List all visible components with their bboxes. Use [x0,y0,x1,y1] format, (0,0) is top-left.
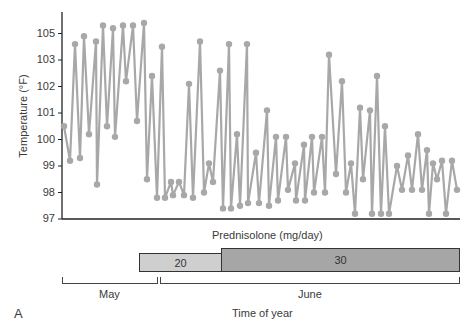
data-point [154,195,160,201]
data-point [264,107,270,113]
data-point [159,44,165,50]
may-bracket [62,277,158,284]
month-label-may: May [99,288,120,300]
data-point [399,187,405,193]
data-point [293,197,299,203]
data-point [319,134,325,140]
data-point [256,200,262,206]
data-point [206,160,212,166]
y-tick-label: 99 [27,159,55,171]
data-point [326,52,332,58]
data-point [322,189,328,195]
y-tick-label: 97 [27,212,55,224]
data-point [93,38,99,44]
x-axis-title: Time of year [232,307,293,319]
data-point [86,131,92,137]
data-point [226,41,232,47]
data-point [130,22,136,28]
data-point [237,203,243,209]
data-point [123,78,129,84]
data-point [394,163,400,169]
data-point [77,155,83,161]
data-point [217,67,223,73]
temperature-line [64,23,457,214]
data-point [141,20,147,26]
panel-label: A [14,306,23,321]
data-point [382,123,388,129]
data-point [266,203,272,209]
data-point [378,211,384,217]
data-point [275,197,281,203]
june-bracket [160,277,460,284]
data-point [100,22,106,28]
data-point [424,147,430,153]
data-point [112,134,118,140]
data-point [244,41,250,47]
data-point [197,38,203,44]
data-point [61,123,67,129]
data-point [149,73,155,79]
data-point [170,192,176,198]
data-point [134,118,140,124]
data-point [369,211,375,217]
data-point [311,189,317,195]
data-point [348,160,354,166]
data-point [409,187,415,193]
data-point [110,25,116,31]
data-point [181,192,187,198]
data-point [67,158,73,164]
data-point [94,181,100,187]
data-point [374,73,380,79]
y-tick-label: 103 [27,53,55,65]
y-tick-label: 102 [27,80,55,92]
data-point [285,187,291,193]
dose-bar-20: 20 [139,253,222,272]
data-point [104,123,110,129]
data-point [426,211,432,217]
data-point [253,150,259,156]
data-point [439,158,445,164]
dose-bar-30-label: 30 [334,254,346,266]
data-point [162,195,168,201]
data-point [333,171,339,177]
data-point [168,179,174,185]
data-point [292,160,298,166]
data-point [367,107,373,113]
data-point [343,189,349,195]
data-point [419,187,425,193]
data-point [352,211,358,217]
data-point [190,195,196,201]
data-point [81,33,87,39]
data-point [430,160,436,166]
data-point [210,179,216,185]
data-point [360,176,366,182]
y-tick-label: 101 [27,106,55,118]
data-point [176,179,182,185]
data-point [201,189,207,195]
data-point [301,142,307,148]
data-point [443,211,449,217]
data-point [434,176,440,182]
data-point [234,131,240,137]
data-point [449,158,455,164]
data-point [273,134,279,140]
data-point [415,131,421,137]
data-point [228,205,234,211]
dose-bar-30: 30 [221,248,460,272]
data-point [405,152,411,158]
data-point [186,81,192,87]
data-point [120,22,126,28]
month-label-june: June [298,288,322,300]
data-point [220,205,226,211]
y-tick-label: 105 [27,27,55,39]
data-point [302,197,308,203]
data-point [339,78,345,84]
data-point [357,105,363,111]
data-point [245,200,251,206]
data-point [309,134,315,140]
data-point [386,211,392,217]
prednisolone-title: Prednisolone (mg/day) [212,229,323,241]
y-tick-label: 100 [27,133,55,145]
data-point [144,176,150,182]
data-point [283,134,289,140]
